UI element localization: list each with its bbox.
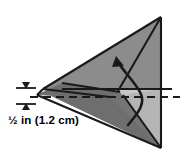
pyramid-diagram-svg	[0, 0, 185, 155]
dimension-label: ½ in (1.2 cm)	[8, 114, 79, 126]
geometry-figure: ½ in (1.2 cm)	[0, 0, 185, 155]
